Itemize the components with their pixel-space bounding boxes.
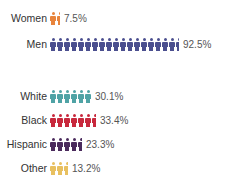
person-icon [92,38,98,51]
person-icons [50,137,83,151]
row-black: Black 33.4% [0,112,128,128]
person-icon [57,162,63,175]
person-icon [50,114,56,127]
row-value: 33.4% [100,115,128,126]
person-icon [169,38,175,51]
person-icons [50,11,61,25]
person-icon [92,114,96,127]
person-icon [99,38,105,51]
person-icon [127,38,133,51]
person-icon [50,162,56,175]
person-icon [113,38,119,51]
person-icons [50,89,92,103]
person-icon [64,114,70,127]
row-value: 30.1% [95,91,123,102]
row-men: Men 92.5% [0,36,211,52]
person-icon [50,138,56,151]
person-icon [155,38,161,51]
row-label: Other [0,162,50,174]
person-icon [78,90,84,103]
row-white: White 30.1% [0,88,123,104]
person-icon [78,138,82,151]
person-icon [50,38,56,51]
row-women: Women 7.5% [0,10,87,26]
person-icon [50,90,56,103]
person-icon [106,38,112,51]
row-value: 23.3% [86,139,114,150]
person-icon [71,138,77,151]
person-icon [57,38,63,51]
person-icon [120,38,126,51]
row-hispanic: Hispanic 23.3% [0,136,114,152]
person-icon [57,114,63,127]
person-icon [64,162,68,175]
person-icon [85,90,91,103]
row-label: Black [0,114,50,126]
row-label: Women [0,12,50,24]
person-icon [57,12,60,25]
person-icon [141,38,147,51]
person-icon [71,38,77,51]
person-icon [64,90,70,103]
row-other: Other 13.2% [0,160,100,176]
person-icon [50,12,56,25]
person-icon [85,114,91,127]
row-label: White [0,90,50,102]
row-value: 7.5% [64,13,87,24]
row-label: Hispanic [0,138,50,150]
row-value: 92.5% [183,39,211,50]
person-icon [71,114,77,127]
person-icon [85,38,91,51]
person-icon [176,38,179,51]
person-icon [64,38,70,51]
person-icons [50,161,69,175]
person-icons [50,113,97,127]
person-icon [148,38,154,51]
row-label: Men [0,38,50,50]
person-icons [50,37,180,51]
person-icon [78,38,84,51]
person-icon [64,138,70,151]
person-icon [134,38,140,51]
person-icon [57,138,63,151]
row-value: 13.2% [72,163,100,174]
person-icon [71,90,77,103]
person-icon [57,90,63,103]
person-icon [78,114,84,127]
person-icon [162,38,168,51]
